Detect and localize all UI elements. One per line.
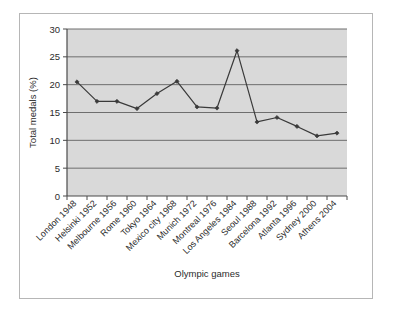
y-tick-label: 5 [55,163,60,174]
y-tick-label: 30 [49,24,60,35]
y-tick-label: 15 [49,107,60,118]
y-tick-label: 10 [49,135,60,146]
x-axis-category-labels: London 1948Helsinki 1952Melbourne 1956Ro… [34,198,338,256]
line-chart: 051015202530London 1948: 20.5%Helsinki 1… [20,14,374,300]
figure-frame: 051015202530London 1948: 20.5%Helsinki 1… [19,13,373,299]
y-tick-label: 20 [49,79,60,90]
y-tick-label: 0 [55,191,60,202]
y-axis-title: Total medals (%) [27,77,38,148]
y-tick-label: 25 [49,51,60,62]
y-axis-ticks: 051015202530 [49,24,67,202]
x-axis-title: Olympic games [174,268,240,279]
